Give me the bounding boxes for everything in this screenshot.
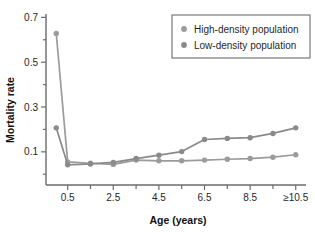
- x-axis-title: Age (years): [149, 214, 206, 226]
- data-point: [111, 160, 116, 165]
- data-point: [156, 158, 161, 163]
- legend-marker-high-density: [181, 26, 187, 32]
- data-point: [65, 162, 70, 167]
- legend-box: [172, 15, 310, 58]
- data-point: [179, 158, 184, 163]
- x-axis-tick-label: ≥10.5: [283, 192, 308, 203]
- legend-label-high-density: High-density population: [194, 24, 299, 35]
- x-axis-tick-label: 2.5: [106, 192, 120, 203]
- data-point: [202, 157, 207, 162]
- data-point: [88, 161, 93, 166]
- data-point: [54, 125, 59, 130]
- data-point: [247, 135, 252, 140]
- x-axis-tick-label: 8.5: [243, 192, 257, 203]
- data-point: [202, 137, 207, 142]
- data-point: [156, 152, 161, 157]
- data-point: [293, 152, 298, 157]
- y-axis-tick-label: 0.1: [24, 146, 38, 157]
- legend-marker-low-density: [181, 42, 187, 48]
- series-line: [56, 128, 295, 165]
- y-axis-tick-label: 0.7: [24, 12, 38, 23]
- data-point: [293, 125, 298, 130]
- data-point: [54, 31, 59, 36]
- data-point: [133, 156, 138, 161]
- data-point: [179, 149, 184, 154]
- data-point: [247, 156, 252, 161]
- y-axis-tick-label: 0.5: [24, 57, 38, 68]
- chart-legend: High-density populationLow-density popul…: [172, 15, 310, 58]
- data-point: [270, 131, 275, 136]
- data-point: [270, 155, 275, 160]
- x-axis: 0.52.54.56.58.5≥10.5: [46, 185, 309, 203]
- y-axis-tick-label: 0.3: [24, 102, 38, 113]
- data-point: [225, 136, 230, 141]
- x-axis-tick-label: 6.5: [198, 192, 212, 203]
- x-axis-tick-label: 4.5: [152, 192, 166, 203]
- mortality-rate-line-chart: 0.10.30.50.7 0.52.54.56.58.5≥10.5 Mortal…: [0, 0, 315, 232]
- legend-label-low-density: Low-density population: [194, 40, 296, 51]
- x-axis-tick-label: 0.5: [61, 192, 75, 203]
- y-axis: 0.10.30.50.7: [24, 12, 46, 185]
- data-point: [225, 157, 230, 162]
- y-axis-title: Mortality rate: [4, 77, 16, 143]
- chart-figure: 0.10.30.50.7 0.52.54.56.58.5≥10.5 Mortal…: [0, 0, 315, 232]
